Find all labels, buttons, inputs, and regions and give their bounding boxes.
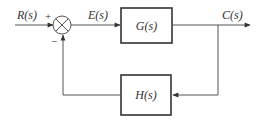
block-diagram: R(s) + − E(s) G(s) C(s) H(s): [0, 0, 264, 122]
feedback-tap-line: [173, 25, 218, 95]
summing-junction: [53, 16, 71, 34]
feedback-block-label: H(s): [134, 88, 156, 102]
forward-block-label: G(s): [136, 19, 157, 33]
feedback-return-line: [63, 35, 121, 95]
error-label: E(s): [87, 8, 108, 22]
input-label: R(s): [16, 8, 37, 22]
feedback-block: H(s): [121, 75, 171, 115]
forward-block: G(s): [121, 8, 172, 43]
minus-sign: −: [51, 35, 57, 47]
output-label: C(s): [222, 8, 243, 22]
plus-sign: +: [45, 10, 51, 22]
